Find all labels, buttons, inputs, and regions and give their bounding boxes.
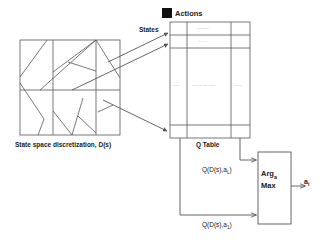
diagram-svg <box>0 0 324 248</box>
q-table-label: Q Table <box>196 142 219 149</box>
q-bottom-expr: Q(D(s),a <box>202 221 227 228</box>
argmax-label-line1: Arga <box>261 170 277 180</box>
arrow-states-bottom <box>103 100 167 131</box>
states-label: States <box>139 27 159 34</box>
q-cell-row2-center: – – – <box>199 40 208 43</box>
figure-canvas: Actions States Q Table State space discr… <box>0 0 324 248</box>
q-cell-row1-center: ––––– <box>198 27 209 30</box>
q-output-connectors <box>180 138 256 215</box>
q-value-top-label: Q(D(s),aL) <box>202 167 232 176</box>
q-top-close: ) <box>230 166 232 173</box>
selected-action-label: ai <box>304 178 309 187</box>
q-top-expr: Q(D(s),a <box>202 166 227 173</box>
q-cell-mid-right: ––– <box>235 84 242 87</box>
state-space-discretization <box>20 40 120 135</box>
argmax-subscript: a <box>274 174 277 180</box>
q-cell-mid-left: ––– <box>173 84 180 87</box>
argmax-arg-text: Arg <box>261 169 274 178</box>
state-space-caption: State space discretization, D(s) <box>15 142 111 149</box>
q-table-grid <box>170 22 250 138</box>
output-action-subscript: i <box>308 181 309 187</box>
q-cell-mid-center: ––– – –– ––– <box>192 84 215 87</box>
arrow-states-top <box>108 33 168 62</box>
actions-label: Actions <box>175 10 203 18</box>
q-value-bottom-label: Q(D(s),a1) <box>202 222 232 231</box>
argmax-label-line2: Max <box>261 182 276 190</box>
actions-legend-swatch-icon <box>162 8 172 18</box>
q-bottom-close: ) <box>230 221 232 228</box>
